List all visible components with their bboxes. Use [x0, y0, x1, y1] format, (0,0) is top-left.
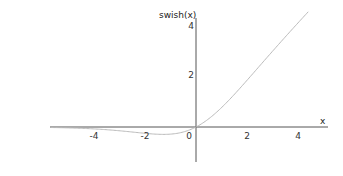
y-tick-labels: 24 — [188, 21, 194, 80]
y-tick-label: 4 — [188, 21, 194, 31]
x-tick-label: -4 — [90, 131, 99, 141]
x-tick-labels: -4-2024 — [90, 131, 302, 141]
y-axis-label: swish(x) — [159, 10, 196, 20]
swish-chart: -4-2024 24 x swish(x) — [0, 0, 343, 176]
x-tick-label: 0 — [186, 131, 192, 141]
swish-curve — [51, 12, 309, 135]
x-axis-label: x — [320, 116, 326, 126]
y-tick-label: 2 — [188, 70, 194, 80]
x-tick-label: -2 — [141, 131, 150, 141]
x-tick-label: 2 — [244, 131, 250, 141]
x-tick-label: 4 — [295, 131, 301, 141]
